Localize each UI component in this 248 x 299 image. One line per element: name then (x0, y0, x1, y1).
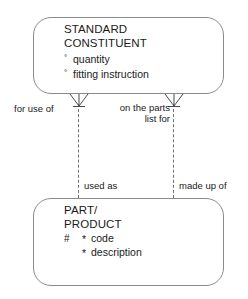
entity-box-part-product[interactable]: PART/ PRODUCT #*code *description (33, 198, 224, 286)
entity-name-line-2: CONSTITUENT (64, 37, 217, 51)
attribute-row: *description (64, 246, 217, 260)
entity-content-part-product: PART/ PRODUCT #*code *description (64, 204, 217, 260)
attribute-list-standard-constituent: °quantity °fitting instruction (64, 51, 217, 81)
mandatory-attribute-marker-icon: * (82, 247, 91, 260)
attribute-row: °quantity (64, 51, 217, 66)
crows-foot-many-icon (68, 93, 90, 115)
attribute-name: quantity (73, 53, 110, 65)
relationship-label-line-2: list for (145, 113, 170, 124)
mandatory-attribute-marker-icon: * (82, 233, 91, 246)
relationship-line-left[interactable] (78, 104, 79, 198)
entity-content-standard-constituent: STANDARD CONSTITUENT °quantity °fitting … (64, 23, 217, 81)
relationship-label-made-up-of: made up of (179, 180, 227, 191)
entity-name-line-2: PRODUCT (64, 218, 217, 232)
entity-name-line-1: STANDARD (64, 23, 217, 37)
attribute-row: °fitting instruction (64, 66, 217, 81)
relationship-label-on-the-parts-list-for: on the parts list for (104, 102, 170, 124)
attribute-name: fitting instruction (73, 68, 149, 80)
optional-attribute-marker-icon: ° (64, 66, 73, 79)
er-diagram-canvas: STANDARD CONSTITUENT °quantity °fitting … (0, 0, 248, 299)
attribute-row: #*code (64, 232, 217, 246)
attribute-name: description (91, 246, 142, 258)
primary-key-marker-icon: # (64, 232, 73, 245)
entity-name-line-1: PART/ (64, 204, 217, 218)
relationship-line-right[interactable] (173, 104, 174, 198)
relationship-label-line-1: on the parts (120, 102, 170, 113)
optional-attribute-marker-icon: ° (64, 51, 73, 64)
relationship-label-used-as: used as (84, 180, 117, 191)
relationship-label-for-use-of: for use of (14, 103, 54, 114)
attribute-name: code (91, 232, 114, 244)
entity-box-standard-constituent[interactable]: STANDARD CONSTITUENT °quantity °fitting … (33, 17, 224, 94)
attribute-list-part-product: #*code *description (64, 232, 217, 260)
